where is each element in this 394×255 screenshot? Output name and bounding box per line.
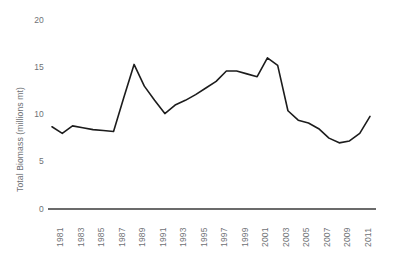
x-tick-label: 1999 (241, 227, 250, 247)
x-tick-label: 2011 (364, 228, 373, 247)
x-tick-label: 1997 (220, 227, 229, 247)
data-series-line (52, 58, 370, 143)
x-tick-label: 2001 (261, 227, 270, 247)
x-tick-label: 1993 (179, 227, 188, 247)
x-tick-label: 1987 (118, 227, 127, 247)
x-tick-label: 1985 (97, 227, 106, 247)
x-tick-label: 1981 (56, 227, 65, 247)
y-tick-label: 10 (22, 110, 44, 119)
y-tick-label: 5 (22, 157, 44, 166)
line-chart: Total Biomass (millions mt) 051015201981… (0, 0, 394, 255)
y-tick-label: 0 (22, 205, 44, 214)
x-tick-label: 1983 (77, 227, 86, 247)
x-tick-label: 2007 (323, 227, 332, 247)
plot-area (0, 0, 394, 255)
x-tick-label: 2009 (343, 227, 352, 247)
x-tick-label: 1989 (138, 227, 147, 247)
x-tick-label: 2005 (302, 227, 311, 247)
x-tick-label: 2003 (282, 227, 291, 247)
y-tick-label: 20 (22, 16, 44, 25)
x-tick-label: 1995 (200, 227, 209, 247)
x-tick-label: 1991 (159, 227, 168, 247)
y-tick-label: 15 (22, 63, 44, 72)
